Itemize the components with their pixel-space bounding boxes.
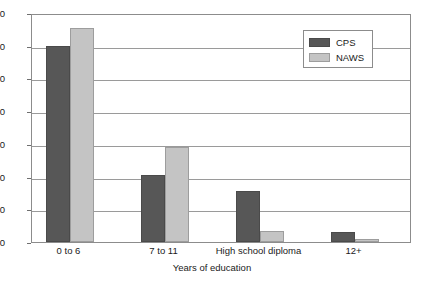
bar-naws-2 bbox=[260, 231, 284, 242]
x-tick-label: 12+ bbox=[345, 246, 361, 256]
bar-cps-0 bbox=[46, 46, 70, 242]
bar-naws-0 bbox=[70, 28, 94, 242]
bar-cps-3 bbox=[331, 232, 355, 242]
y-tick-label: 60 bbox=[0, 42, 5, 52]
legend-item-cps: CPS bbox=[309, 35, 372, 50]
legend-swatch-cps-icon bbox=[309, 38, 330, 47]
y-tick-label: 50 bbox=[0, 74, 5, 84]
bar-naws-3 bbox=[355, 239, 379, 242]
legend-swatch-naws-icon bbox=[309, 53, 330, 62]
y-tick-label: 40 bbox=[0, 107, 5, 117]
bar-cps-2 bbox=[236, 191, 260, 242]
y-tick-label: 30 bbox=[0, 140, 5, 150]
bar-chart: 010203040506070 0 to 67 to 11High school… bbox=[0, 0, 424, 287]
legend-label-naws: NAWS bbox=[336, 53, 364, 63]
bar-cps-1 bbox=[141, 175, 165, 242]
legend: CPS NAWS bbox=[303, 30, 373, 68]
y-tick-mark bbox=[27, 243, 31, 244]
x-tick-label: 7 to 11 bbox=[149, 246, 177, 256]
y-tick-label: 20 bbox=[0, 173, 5, 183]
y-tick-label: 70 bbox=[0, 9, 5, 19]
legend-item-naws: NAWS bbox=[309, 50, 372, 65]
x-tick-label: High school diploma bbox=[216, 246, 302, 256]
legend-label-cps: CPS bbox=[336, 38, 356, 48]
y-tick-label: 0 bbox=[0, 238, 5, 248]
bar-naws-1 bbox=[165, 147, 189, 242]
y-tick-label: 10 bbox=[0, 205, 5, 215]
x-axis: 0 to 67 to 11High school diploma12+ bbox=[31, 246, 411, 262]
x-tick-label: 0 to 6 bbox=[57, 246, 81, 256]
x-axis-title: Years of education bbox=[0, 262, 424, 273]
